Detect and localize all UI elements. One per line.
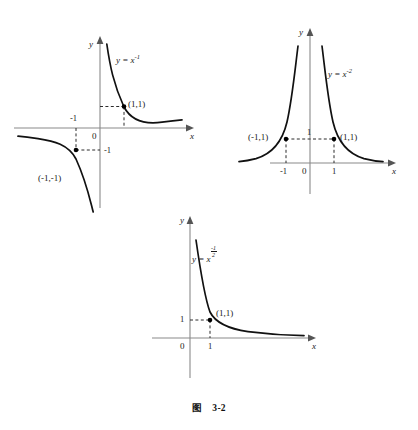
- plot-x-inverse-square: y x 0 -1 1 1 (-1,1) (1,1) y = x-2: [228, 22, 418, 202]
- point-label-1-1: (1,1): [128, 100, 145, 109]
- plot-x-inverse-square-svg: [228, 22, 418, 202]
- x-axis-label: x: [190, 132, 194, 141]
- equation-label-plot1: y = x-1: [116, 56, 140, 65]
- point-label-1-1: (1,1): [340, 133, 357, 142]
- equation-base: y = x: [192, 254, 211, 264]
- caption-number: 3-2: [212, 403, 226, 413]
- curve-right-branch: [322, 46, 383, 162]
- point-1-1: [208, 318, 213, 323]
- origin-label: 0: [92, 132, 97, 141]
- tick-label-y-1: 1: [307, 128, 311, 137]
- tick-label-y-1: 1: [180, 315, 184, 324]
- point-label-neg1-1: (-1,1): [248, 133, 268, 142]
- tick-label-x-neg1: -1: [70, 114, 77, 123]
- equation-base: y = x: [328, 69, 347, 79]
- exponent-denominator: 2: [211, 252, 217, 258]
- y-axis-label: y: [180, 216, 184, 225]
- equation-exponent: -2: [347, 67, 352, 74]
- equation-base: y = x: [116, 55, 135, 65]
- point-1-1: [122, 104, 127, 109]
- point-neg1-neg1: [74, 148, 79, 153]
- y-axis-label: y: [89, 40, 93, 49]
- plot-x-inverse-half-svg: [130, 212, 330, 387]
- equation-label-plot2: y = x-2: [328, 70, 352, 79]
- tick-label-x-1: 1: [208, 342, 212, 351]
- y-axis-arrow: [307, 28, 314, 36]
- tick-label-y-neg1: -1: [104, 146, 111, 155]
- point-1-1: [332, 137, 337, 142]
- caption-label: 图: [192, 403, 202, 413]
- curve-left-branch: [239, 46, 298, 162]
- point-neg1-1: [284, 137, 289, 142]
- equation-exponent: -1: [135, 53, 140, 60]
- origin-label: 0: [302, 167, 307, 176]
- plot-x-inverse-svg: [0, 22, 205, 212]
- point-label-neg1-neg1: (-1,-1): [38, 174, 61, 183]
- tick-label-x-neg1: -1: [280, 167, 287, 176]
- equation-label-plot3: y = x-12: [192, 246, 217, 264]
- plot-x-inverse-half: y x 0 1 1 (1,1) y = x-12: [130, 212, 330, 387]
- tick-label-x-1: 1: [332, 167, 336, 176]
- point-label-1-1: (1,1): [216, 309, 233, 318]
- x-axis-label: x: [392, 167, 396, 176]
- x-axis-label: x: [312, 342, 316, 351]
- plot-x-inverse: y x 0 -1 -1 (1,1) (-1,-1) y = x-1: [0, 22, 205, 212]
- y-axis-arrow: [97, 36, 104, 44]
- figure-caption: 图3-2: [0, 400, 418, 414]
- y-axis-arrow: [187, 216, 194, 224]
- figure-sheet: y x 0 -1 -1 (1,1) (-1,-1) y = x-1: [0, 0, 418, 430]
- origin-label: 0: [180, 342, 185, 351]
- exponent-numerator: 1: [213, 245, 216, 251]
- equation-exponent-fraction: -12: [211, 245, 217, 258]
- y-axis-label: y: [299, 28, 303, 37]
